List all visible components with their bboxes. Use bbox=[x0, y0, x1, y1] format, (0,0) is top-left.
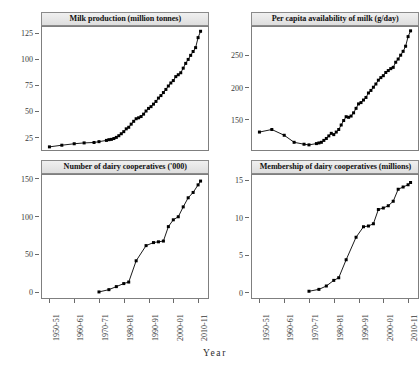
data-point bbox=[293, 141, 296, 144]
panel-cooperatives: Number of dairy cooperatives ('000) bbox=[41, 160, 209, 299]
data-point bbox=[362, 99, 365, 102]
y-tick-label: 0 bbox=[5, 289, 39, 297]
series-line bbox=[309, 183, 411, 292]
x-tick-mark bbox=[198, 299, 199, 303]
data-point bbox=[392, 66, 395, 69]
y-tick-label: 75 bbox=[5, 82, 39, 90]
data-point bbox=[145, 244, 148, 247]
y-tick-label: 250 bbox=[215, 52, 249, 60]
x-tick-label: 2010-11 bbox=[411, 315, 419, 341]
data-point bbox=[337, 276, 340, 279]
data-point bbox=[83, 141, 86, 144]
series-line bbox=[259, 31, 410, 145]
data-point bbox=[387, 204, 390, 207]
data-point bbox=[283, 134, 286, 137]
data-point bbox=[377, 208, 380, 211]
data-point bbox=[199, 180, 202, 183]
x-tick-mark bbox=[124, 299, 125, 303]
x-tick-mark bbox=[408, 299, 409, 303]
panel-title-cooperatives: Number of dairy cooperatives ('000) bbox=[63, 163, 186, 171]
x-tick-label: 1990-91 bbox=[362, 314, 370, 341]
y-tick-label: 5 bbox=[215, 252, 249, 260]
data-point bbox=[189, 54, 192, 57]
series-line bbox=[99, 181, 201, 292]
data-point bbox=[152, 241, 155, 244]
data-point bbox=[367, 225, 370, 228]
data-point bbox=[157, 240, 160, 243]
panel-strip-milk-production: Milk production (million tonnes) bbox=[41, 12, 209, 26]
data-point bbox=[342, 119, 345, 122]
data-point bbox=[122, 130, 125, 133]
data-point bbox=[179, 71, 182, 74]
data-point bbox=[352, 111, 355, 114]
data-point bbox=[340, 124, 343, 127]
data-point bbox=[258, 131, 261, 134]
data-point bbox=[172, 218, 175, 221]
x-tick-label: 2000-01 bbox=[177, 314, 185, 341]
data-point bbox=[199, 30, 202, 33]
x-tick-mark bbox=[284, 299, 285, 303]
data-point bbox=[167, 85, 170, 88]
y-tick-label: 0 bbox=[215, 290, 249, 298]
data-point bbox=[132, 120, 135, 123]
data-point bbox=[142, 113, 145, 116]
data-point bbox=[369, 89, 372, 92]
y-tick-label: 25 bbox=[5, 135, 39, 143]
x-tick-label: 2010-11 bbox=[201, 315, 209, 341]
panel-strip-membership: Membership of dairy cooperatives (millio… bbox=[251, 160, 419, 174]
x-tick-label: 1950-51 bbox=[263, 314, 271, 341]
data-point bbox=[377, 79, 380, 82]
data-point bbox=[172, 79, 175, 82]
data-point bbox=[194, 46, 197, 49]
data-point bbox=[397, 188, 400, 191]
x-tick-mark bbox=[334, 299, 335, 303]
data-point bbox=[192, 50, 195, 53]
y-tick-label: 50 bbox=[5, 108, 39, 116]
data-point bbox=[145, 110, 148, 113]
panel-membership: Membership of dairy cooperatives (millio… bbox=[251, 160, 419, 299]
panel-title-membership: Membership of dairy cooperatives (millio… bbox=[259, 163, 410, 171]
data-point bbox=[327, 134, 330, 137]
data-point bbox=[167, 225, 170, 228]
x-tick-label: 1960-61 bbox=[287, 314, 295, 341]
data-point bbox=[317, 288, 320, 291]
series-bl bbox=[42, 175, 208, 298]
x-tick-mark bbox=[383, 299, 384, 303]
panel-strip-per-capita: Per capita availability of milk (g/day) bbox=[251, 12, 419, 26]
y-tick-label: 50 bbox=[5, 251, 39, 259]
data-point bbox=[97, 290, 100, 293]
x-tick-label: 1970-71 bbox=[102, 314, 110, 341]
data-point bbox=[187, 196, 190, 199]
x-tick-label: 1970-71 bbox=[312, 314, 320, 341]
x-tick-label: 1980-81 bbox=[337, 314, 345, 341]
panel-title-milk-production: Milk production (million tonnes) bbox=[69, 15, 181, 23]
series-tr bbox=[252, 27, 418, 150]
data-point bbox=[409, 181, 412, 184]
data-point bbox=[307, 143, 310, 146]
panel-milk-production: Milk production (million tonnes) bbox=[41, 12, 209, 151]
x-tick-mark bbox=[99, 299, 100, 303]
figure-canvas: Milk production (million tonnes) Per cap… bbox=[0, 0, 420, 367]
data-point bbox=[337, 128, 340, 131]
series-br bbox=[252, 175, 418, 298]
y-tick-label: 10 bbox=[215, 215, 249, 223]
x-tick-mark bbox=[173, 299, 174, 303]
data-point bbox=[402, 186, 405, 189]
data-point bbox=[362, 225, 365, 228]
data-point bbox=[164, 88, 167, 91]
data-point bbox=[325, 285, 328, 288]
y-tick-label: 125 bbox=[5, 30, 39, 38]
data-point bbox=[197, 36, 200, 39]
y-tick-label: 100 bbox=[5, 56, 39, 64]
data-point bbox=[397, 58, 400, 61]
data-point bbox=[127, 126, 130, 129]
data-point bbox=[372, 222, 375, 225]
data-point bbox=[73, 142, 76, 145]
data-point bbox=[162, 91, 165, 94]
data-point bbox=[159, 94, 162, 97]
data-point bbox=[399, 54, 402, 57]
x-tick-mark bbox=[309, 299, 310, 303]
data-point bbox=[332, 279, 335, 282]
data-point bbox=[48, 145, 51, 148]
data-point bbox=[270, 128, 273, 131]
